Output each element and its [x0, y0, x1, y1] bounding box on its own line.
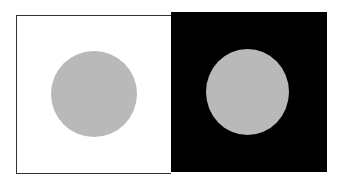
- gray-circle-on-black: [206, 49, 289, 135]
- gray-circle-on-white: [51, 51, 137, 137]
